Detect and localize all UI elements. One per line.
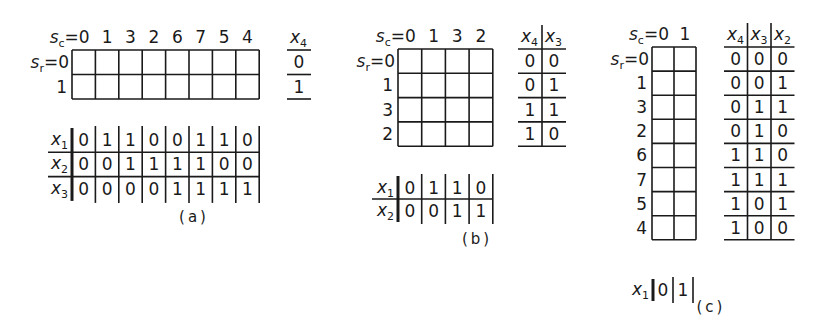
label-x3: x3 xyxy=(50,178,68,201)
header-x2-subscript: 2 xyxy=(784,34,791,47)
table-cell: 0 xyxy=(102,179,113,199)
label-x1: x1 xyxy=(376,177,394,200)
figure-svg: sc=01326754sr=01x401x101100110x200111100… xyxy=(0,0,830,328)
panel-caption: (c) xyxy=(697,298,726,316)
table-cell: 0 xyxy=(102,154,113,174)
column-label: 7 xyxy=(195,27,206,47)
table-cell: 0 xyxy=(428,201,439,221)
sc-axis-label: sc=0 xyxy=(376,26,416,49)
label-x3-subscript: 3 xyxy=(61,188,68,201)
table-cell: 0 xyxy=(549,124,560,144)
sr-first-value: 0 xyxy=(58,52,69,72)
table-cell: 1 xyxy=(219,130,230,150)
table-cell: 1 xyxy=(525,124,536,144)
table-cell: 0 xyxy=(549,51,560,71)
table-cell: 1 xyxy=(242,179,253,199)
sc-equals: = xyxy=(391,26,405,46)
table-cell: 1 xyxy=(428,178,439,198)
sc-axis-label: sc=0 xyxy=(50,27,90,50)
header-x4-subscript: 4 xyxy=(300,37,307,50)
column-label: 1 xyxy=(102,27,113,47)
sc-symbol: s xyxy=(376,26,385,46)
header-x4: x4 xyxy=(520,26,538,49)
table-cell: 1 xyxy=(777,73,788,93)
table-cell: 0 xyxy=(78,154,89,174)
header-x2: x2 xyxy=(773,24,791,47)
column-label: 3 xyxy=(125,27,136,47)
row-label: 3 xyxy=(382,100,393,120)
table-cell: 0 xyxy=(754,73,765,93)
column-variable-table: x101100110x200111100x300001111 xyxy=(48,126,259,203)
table-cell: 1 xyxy=(452,178,463,198)
table-cell: 1 xyxy=(549,75,560,95)
table-cell: 0 xyxy=(125,179,136,199)
header-x3: x3 xyxy=(750,24,768,47)
table-cell: 1 xyxy=(754,97,765,117)
column-label: 4 xyxy=(242,27,253,47)
sr-equals: = xyxy=(370,51,384,71)
table-cell: 0 xyxy=(777,145,788,165)
sc-first-value: 0 xyxy=(79,27,90,47)
column-label: 2 xyxy=(476,26,487,46)
label-x1: x1 xyxy=(631,279,649,302)
table-cell: 0 xyxy=(148,179,159,199)
table-cell: 1 xyxy=(195,179,206,199)
table-cell: 0 xyxy=(754,218,765,238)
table-cell: 0 xyxy=(777,218,788,238)
table-cell: 1 xyxy=(754,121,765,141)
table-cell: 1 xyxy=(549,100,560,120)
panel-a: sc=01326754sr=01x401x101100110x200111100… xyxy=(31,27,311,226)
row-label: 7 xyxy=(636,170,647,190)
table-cell: 1 xyxy=(777,194,788,214)
table-cell: 1 xyxy=(754,145,765,165)
table-cell: 0 xyxy=(148,130,159,150)
table-cell: 1 xyxy=(730,194,741,214)
sr-symbol: s xyxy=(611,49,620,69)
table-cell: 1 xyxy=(102,130,113,150)
sc-first-value: 0 xyxy=(658,24,669,44)
table-cell: 1 xyxy=(195,130,206,150)
map-grid xyxy=(652,47,696,240)
label-x2-subscript: 2 xyxy=(61,163,68,176)
column-label: 6 xyxy=(172,27,183,47)
row-label: 1 xyxy=(636,73,647,93)
panel-caption: (b) xyxy=(462,230,492,248)
table-cell: 1 xyxy=(777,97,788,117)
label-x1-subscript: 1 xyxy=(387,187,394,200)
label-x1-subscript: 1 xyxy=(61,139,68,152)
table-cell: 1 xyxy=(219,179,230,199)
sc-first-value: 0 xyxy=(405,26,416,46)
table-cell: 0 xyxy=(754,49,765,69)
table-cell: 1 xyxy=(294,77,305,97)
table-cell: 1 xyxy=(195,154,206,174)
table-cell: 1 xyxy=(730,170,741,190)
table-cell: 0 xyxy=(730,97,741,117)
column-label: 3 xyxy=(452,26,463,46)
row-label: 2 xyxy=(636,121,647,141)
column-label: 1 xyxy=(680,24,691,44)
header-x4-subscript: 4 xyxy=(531,36,538,49)
table-cell: 0 xyxy=(730,73,741,93)
table-cell: 0 xyxy=(777,121,788,141)
table-cell: 0 xyxy=(294,52,305,72)
table-cell: 0 xyxy=(658,280,669,300)
label-x2: x2 xyxy=(50,153,68,176)
sr-symbol: s xyxy=(357,51,366,71)
label-x1-subscript: 1 xyxy=(642,289,649,302)
sr-axis-label: sr=0 xyxy=(31,52,69,75)
table-cell: 1 xyxy=(125,154,136,174)
row-variable-table: x401 xyxy=(287,27,311,99)
table-cell: 0 xyxy=(525,75,536,95)
sc-equals: = xyxy=(644,24,658,44)
table-cell: 0 xyxy=(525,51,536,71)
header-x3: x3 xyxy=(544,26,562,49)
table-cell: 0 xyxy=(219,154,230,174)
row-variable-table: x4x300011110 xyxy=(518,25,566,146)
table-cell: 1 xyxy=(476,201,487,221)
map-grid xyxy=(398,49,493,146)
sc-equals: = xyxy=(65,27,79,47)
table-cell: 1 xyxy=(730,145,741,165)
sc-symbol: s xyxy=(50,27,59,47)
sr-first-value: 0 xyxy=(384,51,395,71)
header-x4-subscript: 4 xyxy=(737,34,744,47)
